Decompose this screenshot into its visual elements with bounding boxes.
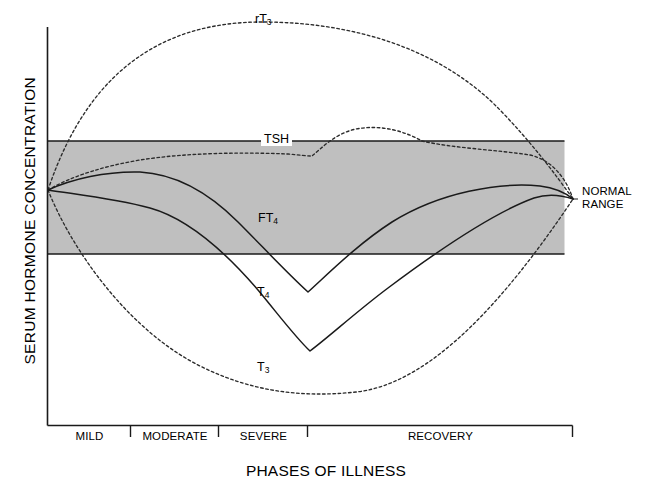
curve-label-t3: T3 bbox=[257, 361, 269, 374]
curve-label-t3-text: T bbox=[257, 360, 265, 374]
phase-label-recovery: RECOVERY bbox=[308, 431, 573, 443]
normal-range-line-2: RANGE bbox=[582, 198, 632, 211]
curve-label-rt3-text: rT bbox=[255, 12, 267, 26]
normal-range-line-1: NORMAL bbox=[582, 185, 632, 198]
normal-range-band bbox=[48, 141, 565, 254]
curve-label-t4-sub: 4 bbox=[265, 290, 270, 300]
curve-label-ft4-text: FT bbox=[258, 211, 273, 225]
curve-label-tsh: TSH bbox=[261, 133, 292, 146]
curve-label-t4: T4 bbox=[257, 286, 269, 299]
phase-label-moderate: MODERATE bbox=[131, 431, 219, 443]
curve-label-rt3: rT3 bbox=[255, 13, 272, 26]
figure-canvas: SERUM HORMONE CONCENTRATION PHASES OF IL… bbox=[0, 0, 652, 497]
curve-label-ft4: FT4 bbox=[258, 212, 278, 225]
phase-label-mild: MILD bbox=[48, 431, 131, 443]
y-axis-title: SERUM HORMONE CONCENTRATION bbox=[22, 51, 38, 391]
curve-label-t3-sub: 3 bbox=[265, 365, 270, 375]
curve-label-ft4-sub: 4 bbox=[273, 216, 278, 226]
curve-label-t4-text: T bbox=[257, 285, 265, 299]
chart-svg bbox=[0, 0, 652, 497]
curve-label-rt3-sub: 3 bbox=[267, 17, 272, 27]
phase-label-severe: SEVERE bbox=[219, 431, 308, 443]
x-axis-title: PHASES OF ILLNESS bbox=[0, 463, 652, 479]
normal-range-callout: NORMAL RANGE bbox=[582, 185, 632, 211]
